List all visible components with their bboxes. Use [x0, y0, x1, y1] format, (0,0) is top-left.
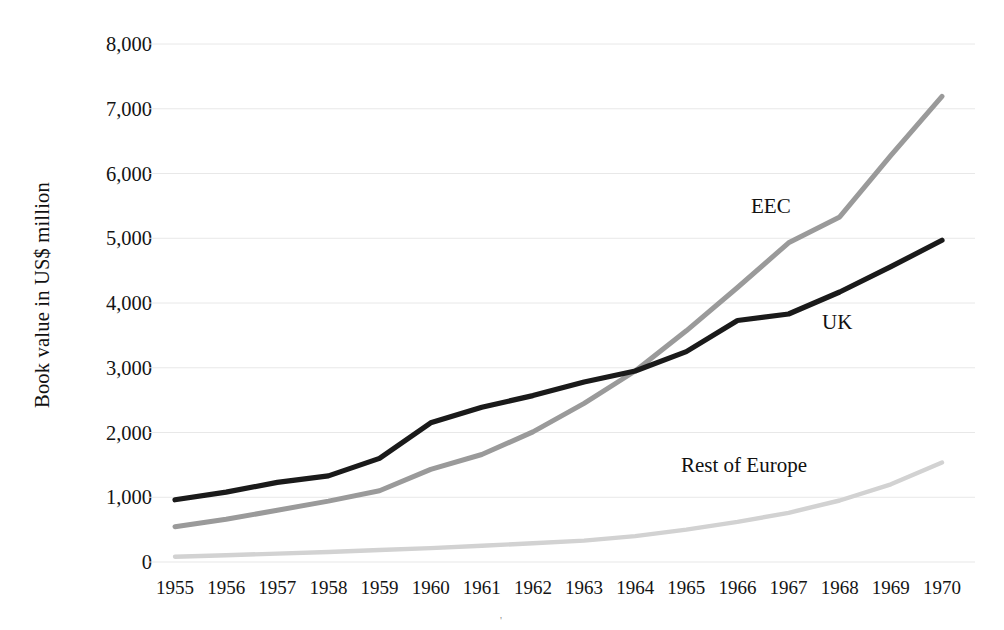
- stray-scan-artifact: ': [500, 614, 502, 626]
- x-axis-tick-labels: 1955195619571958195919601961196219631964…: [0, 578, 1004, 612]
- series-line-uk: [175, 240, 942, 500]
- series-label-uk: UK: [822, 312, 852, 333]
- series-label-eec: EEC: [751, 196, 791, 217]
- series-label-rest-of-europe: Rest of Europe: [681, 455, 807, 476]
- plot-area: [0, 0, 1004, 630]
- line-chart: Book value in US$ million 01,0002,0003,0…: [0, 0, 1004, 630]
- x-axis-tick-label: 1970: [902, 578, 982, 597]
